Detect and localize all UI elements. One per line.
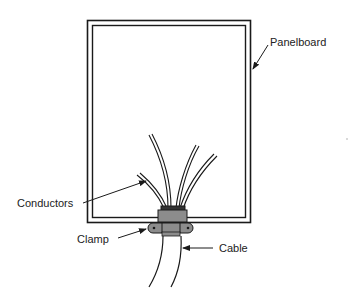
- speck: [346, 138, 348, 140]
- clamp-arrow: [118, 229, 146, 238]
- panelboard-cable-diagram: Panelboard Conductors Clamp Cable: [0, 0, 353, 301]
- conductors-label: Conductors: [17, 198, 73, 209]
- panelboard-arrow: [253, 45, 268, 69]
- clamp-screw-left: [153, 227, 156, 230]
- clamp-gland: [158, 206, 187, 222]
- panelboard-label: Panelboard: [270, 37, 326, 48]
- cable: [149, 236, 181, 287]
- clamp: [148, 223, 193, 236]
- clamp-label: Clamp: [77, 234, 109, 245]
- conductors: [137, 134, 217, 209]
- panelboard-enclosure: [88, 21, 251, 223]
- clamp-screw-right: [187, 227, 190, 230]
- cable-label: Cable: [219, 243, 248, 254]
